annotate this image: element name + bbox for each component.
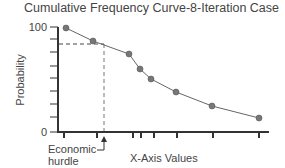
chart-plot: 100 0 Probability Economic hurdle X-Axis…	[0, 0, 285, 168]
hurdle-label-2: hurdle	[48, 155, 79, 167]
hurdle-label-1: Economic	[48, 143, 97, 155]
y-axis-label: Probability	[14, 54, 26, 106]
y-tick-100: 100	[29, 21, 47, 33]
x-axis-label: X-Axis Values	[130, 152, 198, 164]
y-tick-0: 0	[41, 126, 47, 138]
arrow-up-icon	[101, 136, 107, 142]
data-points	[63, 25, 262, 121]
y-ticks	[50, 27, 58, 132]
